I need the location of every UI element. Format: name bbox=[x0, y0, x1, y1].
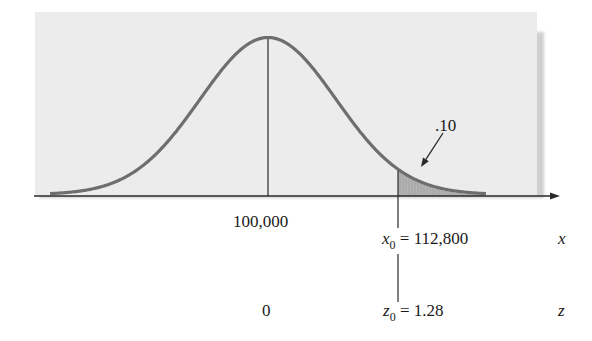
mean-x-label: 100,000 bbox=[233, 213, 288, 230]
area-label: .10 bbox=[435, 117, 456, 134]
z0-label: z0 = 1.28 bbox=[383, 302, 443, 319]
x0-value: = 112,800 bbox=[400, 229, 468, 248]
mean-z-label: 0 bbox=[262, 302, 271, 319]
distribution-plot bbox=[0, 0, 592, 341]
z0-var: z bbox=[383, 301, 390, 320]
plot-panel bbox=[35, 12, 537, 196]
axis-arrowhead-icon bbox=[550, 193, 560, 200]
x0-var: x bbox=[382, 229, 390, 248]
normal-distribution-figure: .10 100,000 x0 = 112,800 x 0 z0 = 1.28 z bbox=[0, 0, 592, 341]
z0-subscript: 0 bbox=[390, 310, 396, 324]
z-axis-var-label: z bbox=[558, 302, 565, 319]
x0-label: x0 = 112,800 bbox=[382, 230, 468, 247]
z0-value: = 1.28 bbox=[400, 301, 444, 320]
x0-subscript: 0 bbox=[390, 238, 396, 252]
x-axis-var-label: x bbox=[558, 230, 566, 247]
